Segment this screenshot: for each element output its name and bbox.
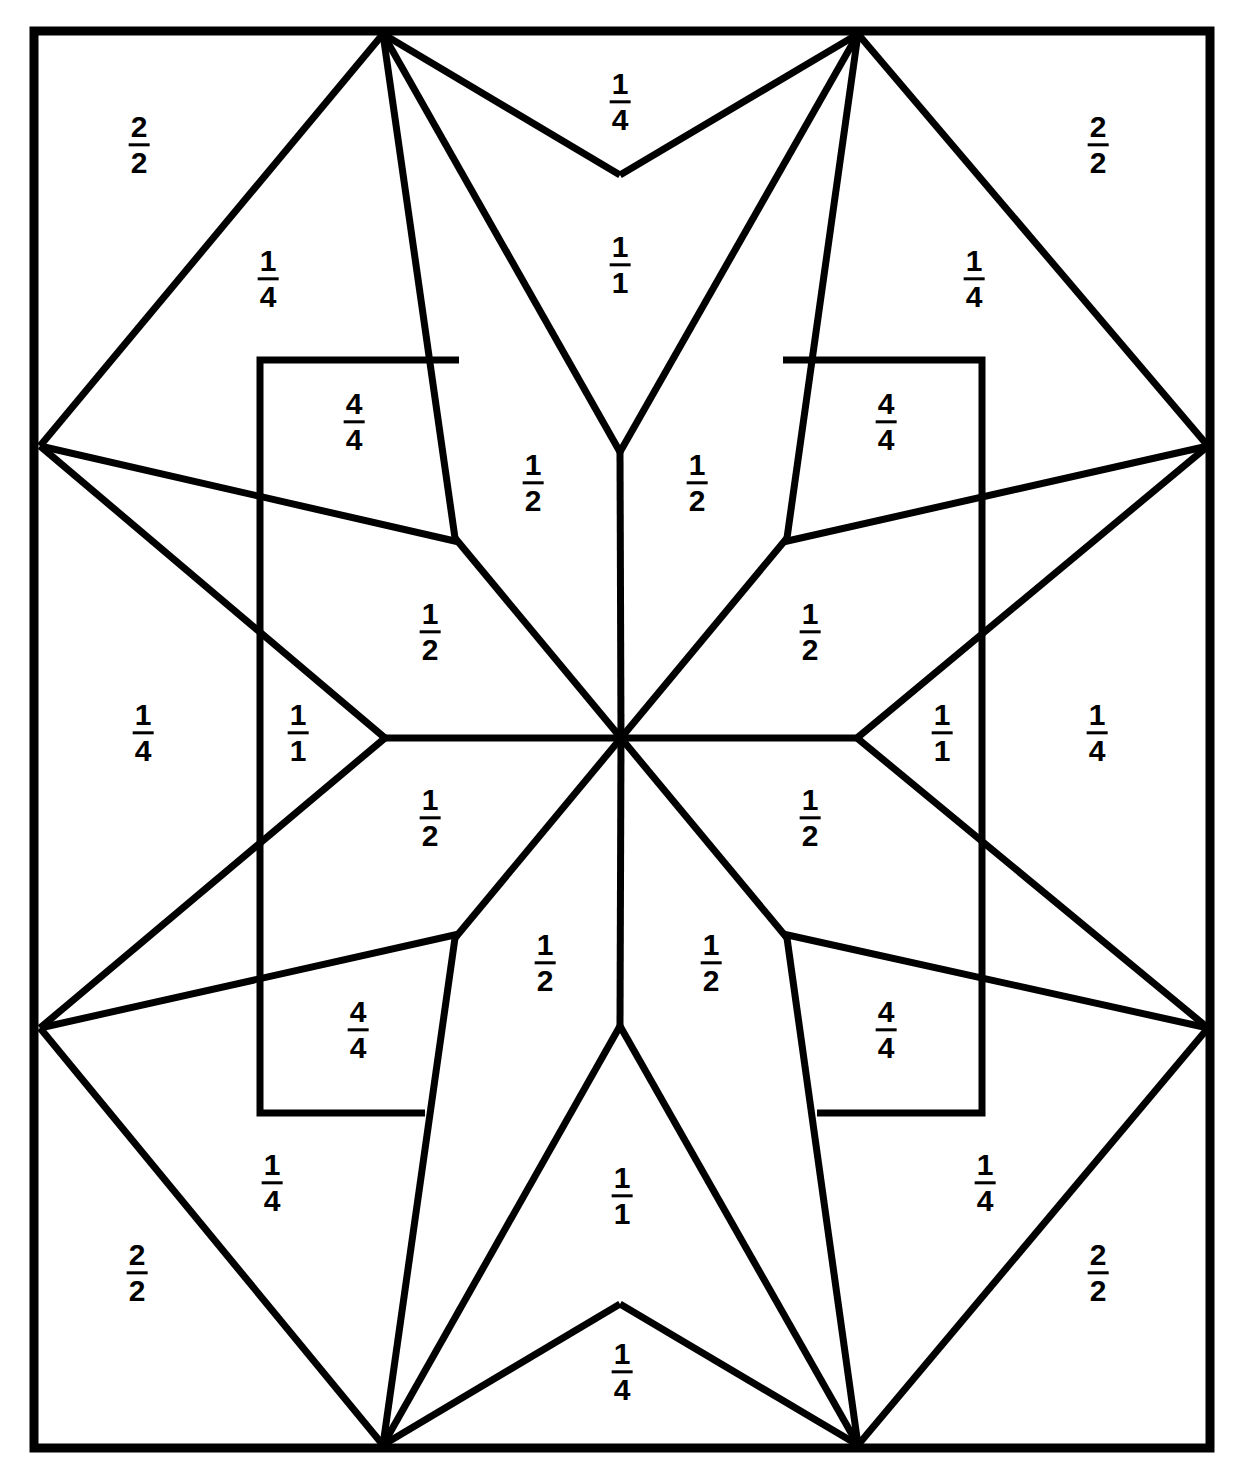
fraction-label-right-side-triangle: 1 4 [1087,699,1108,766]
side-edge-right-lower [783,934,1208,1028]
corner-diagonal-bottom-right [858,1028,1208,1445]
fraction-label-top-center-notch: 1 4 [610,68,631,135]
fraction-label-top-center-point: 1 1 [610,231,631,298]
fraction-label-upper-left-triangle: 1 4 [258,245,279,312]
fraction-label-upper-right-triangle: 1 4 [964,245,985,312]
fraction-label-star-arm-lower-right: 1 2 [800,784,821,851]
fraction-label-lower-right-inner-rect: 4 4 [876,996,897,1063]
fraction-label-left-side-triangle: 1 4 [133,699,154,766]
fraction-label-bottom-right-corner: 2 2 [1088,1239,1109,1306]
side-edge-right-upper [783,446,1208,542]
fraction-label-bottom-center-point: 1 1 [612,1162,633,1229]
fraction-label-star-arm-upper-left: 1 2 [420,598,441,665]
fraction-label-lower-left-triangle: 1 4 [262,1149,283,1216]
fraction-label-right-inner-point: 1 1 [932,699,953,766]
fraction-label-upper-left-inner-rect: 4 4 [344,388,365,455]
fraction-label-top-left-corner: 2 2 [129,111,150,178]
fraction-label-star-arm-upper-right-inner: 1 2 [687,449,708,516]
quilt-diagram-page: 1 4 2 2 2 2 1 4 1 4 1 1 4 4 4 4 1 2 1 2 … [0,0,1242,1476]
fraction-label-star-arm-lower-left: 1 2 [420,784,441,851]
fraction-label-star-arm-upper-left-inner: 1 2 [523,449,544,516]
quilt-block-svg [0,0,1242,1476]
fraction-label-bottom-center-notch: 1 4 [612,1338,633,1405]
star-edge-top-left-to-notch [383,34,620,175]
side-edge-left-lower [40,934,459,1028]
star-point-bottom-left-edge [383,1026,620,1445]
center-spoke-up [620,452,621,738]
star-arm-edge-upper-left-inner [455,538,621,738]
star-arm-edge-lower-left-inner [455,738,621,938]
star-point-right-upper-edge [857,446,1208,738]
fraction-label-upper-right-inner-rect: 4 4 [876,388,897,455]
fraction-label-star-arm-lower-right-inner: 1 2 [701,929,722,996]
star-arm-edge-lower-left-outer [383,938,455,1445]
star-point-top-right-edge [620,34,858,452]
star-arm-edge-upper-right-inner [621,538,787,738]
star-point-left-lower-edge [40,738,385,1028]
star-point-bottom-right-edge [620,1026,858,1445]
star-point-top-left-edge [383,34,620,452]
star-arm-edge-upper-right-outer [787,34,858,538]
star-point-right-lower-edge [857,738,1208,1028]
fraction-label-bottom-left-corner: 2 2 [127,1239,148,1306]
corner-diagonal-top-right [858,34,1208,446]
star-point-left-upper-edge [40,446,385,738]
fraction-label-star-arm-upper-right: 1 2 [800,598,821,665]
fraction-label-lower-left-inner-rect: 4 4 [348,996,369,1063]
center-spoke-down [620,738,621,1026]
corner-diagonal-top-left [40,34,383,446]
fraction-label-top-right-corner: 2 2 [1088,111,1109,178]
star-arm-edge-lower-right-outer [787,938,858,1445]
fraction-label-lower-right-triangle: 1 4 [975,1149,996,1216]
fraction-label-star-arm-lower-left-inner: 1 2 [535,929,556,996]
star-edge-notch-to-top-right [620,34,858,175]
star-arm-edge-upper-left-outer [383,34,455,538]
star-edge-notch-to-bottom-right [620,1304,858,1445]
fraction-label-left-inner-point: 1 1 [288,699,309,766]
star-arm-edge-lower-right-inner [621,738,787,938]
star-edge-bottom-left-to-notch [383,1304,620,1445]
side-edge-left-upper [40,446,459,542]
corner-diagonal-bottom-left [40,1028,383,1445]
